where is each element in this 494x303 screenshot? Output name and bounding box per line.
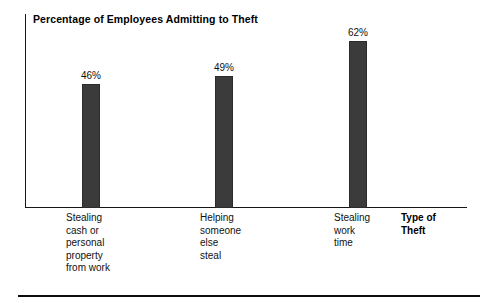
- category-label-0: Stealing cash or personal property from …: [66, 212, 110, 275]
- category-label-1-line-1: someone: [200, 225, 241, 238]
- bar-value-label-1: 49%: [164, 62, 284, 73]
- category-label-1-line-3: steal: [200, 250, 241, 263]
- category-label-0-line-0: Stealing: [66, 212, 110, 225]
- bar-chart-figure: Percentage of Employees Admitting to The…: [0, 0, 494, 303]
- category-label-2-line-2: time: [334, 237, 370, 250]
- category-label-1-line-2: else: [200, 237, 241, 250]
- category-label-0-line-2: personal: [66, 237, 110, 250]
- x-axis-title: Type of Theft: [401, 212, 436, 237]
- bottom-divider-rule: [18, 295, 480, 297]
- bar-0: [82, 84, 100, 208]
- category-label-2: Stealing work time: [334, 212, 370, 250]
- x-axis-title-line-1: Theft: [401, 225, 436, 238]
- x-axis-title-line-0: Type of: [401, 212, 436, 225]
- category-label-1: Helping someone else steal: [200, 212, 241, 262]
- category-label-0-line-3: property: [66, 250, 110, 263]
- category-label-2-line-0: Stealing: [334, 212, 370, 225]
- category-label-2-line-1: work: [334, 225, 370, 238]
- bar-value-label-2: 62%: [298, 27, 418, 38]
- plot-area: 46% 49% 62%: [25, 14, 467, 208]
- bar-1: [215, 76, 233, 208]
- bar-value-label-0: 46%: [31, 70, 151, 81]
- category-label-0-line-1: cash or: [66, 225, 110, 238]
- category-label-0-line-4: from work: [66, 262, 110, 275]
- category-label-1-line-0: Helping: [200, 212, 241, 225]
- bar-2: [349, 41, 367, 208]
